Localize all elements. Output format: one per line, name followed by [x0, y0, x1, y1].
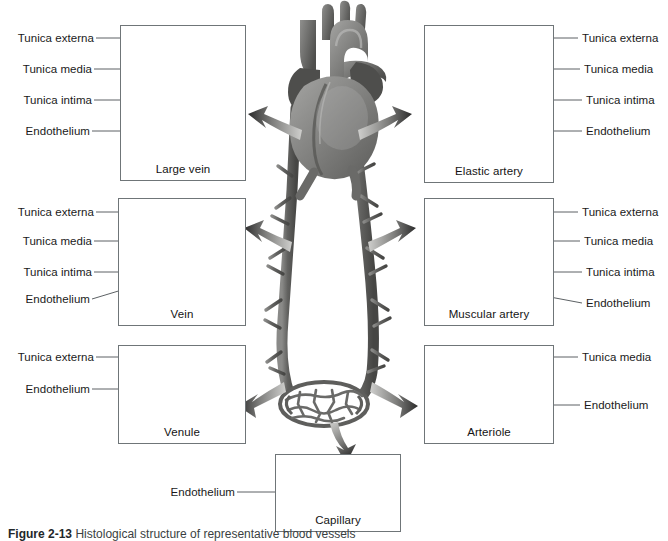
label-venule-tunica-externa: Tunica externa — [0, 351, 94, 363]
panel-venule[interactable]: Venule — [118, 345, 246, 444]
label-elastic-artery-tunica-externa: Tunica externa — [582, 32, 658, 44]
panel-title-vein: Vein — [119, 308, 245, 320]
panel-title-muscular-artery: Muscular artery — [425, 308, 553, 320]
figure-caption-text: Histological structure of representative… — [75, 527, 355, 541]
label-large-vein-endothelium: Endothelium — [0, 125, 90, 137]
label-capillary-endothelium: Endothelium — [145, 486, 235, 498]
panel-title-venule: Venule — [119, 426, 245, 438]
label-muscular-artery-tunica-media: Tunica media — [584, 235, 653, 247]
panel-large-vein[interactable]: Large vein — [120, 25, 246, 181]
panel-elastic-artery[interactable]: Elastic artery — [424, 25, 554, 183]
label-vein-tunica-externa: Tunica externa — [0, 206, 94, 218]
label-large-vein-tunica-externa: Tunica externa — [0, 32, 94, 44]
label-elastic-artery-tunica-media: Tunica media — [584, 63, 653, 75]
label-large-vein-tunica-media: Tunica media — [0, 63, 92, 75]
label-arteriole-endothelium: Endothelium — [584, 399, 648, 411]
label-vein-tunica-intima: Tunica intima — [0, 266, 92, 278]
label-vein-endothelium: Endothelium — [0, 293, 90, 305]
panel-arteriole[interactable]: Arteriole — [424, 345, 554, 444]
figure-caption: Figure 2-13 Histological structure of re… — [8, 527, 356, 541]
panel-title-capillary: Capillary — [276, 514, 400, 526]
capillary-bed — [280, 382, 368, 426]
label-vein-tunica-media: Tunica media — [0, 235, 92, 247]
panel-capillary[interactable]: Capillary — [275, 454, 401, 532]
label-muscular-artery-tunica-intima: Tunica intima — [586, 266, 655, 278]
arrow-to-arteriole — [370, 382, 418, 418]
label-elastic-artery-tunica-intima: Tunica intima — [586, 94, 655, 106]
label-muscular-artery-endothelium: Endothelium — [586, 297, 650, 309]
panel-title-arteriole: Arteriole — [425, 426, 553, 438]
label-muscular-artery-tunica-externa: Tunica externa — [582, 206, 658, 218]
label-elastic-artery-endothelium: Endothelium — [586, 125, 650, 137]
label-venule-endothelium: Endothelium — [0, 383, 90, 395]
panel-title-large-vein: Large vein — [121, 163, 245, 175]
arrow-to-muscular-artery — [368, 220, 416, 252]
central-circulation-illustration — [238, 1, 418, 464]
figure-caption-label: Figure 2-13 — [8, 527, 72, 541]
panel-vein[interactable]: Vein — [118, 198, 246, 326]
panel-title-elastic-artery: Elastic artery — [425, 165, 553, 177]
panel-muscular-artery[interactable]: Muscular artery — [424, 198, 554, 326]
label-large-vein-tunica-intima: Tunica intima — [0, 94, 92, 106]
label-arteriole-tunica-media: Tunica media — [582, 351, 651, 363]
